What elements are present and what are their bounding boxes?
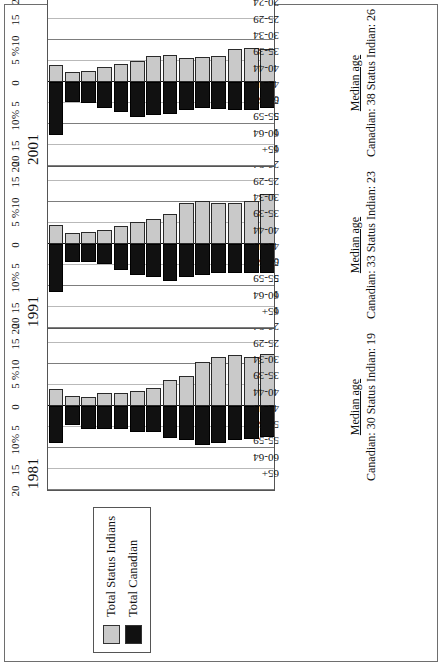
percent-symbol-left: % [9,110,21,119]
age-tick-label-45-49: 45-49 [253,241,279,253]
age-tick-label-30-34: 30-34 [253,354,279,366]
percent-symbol-right: % [9,371,21,380]
age-tick-35-39: 35-39 [277,53,337,69]
median-age-block-2001: Median ageCanadian: 38 Status Indian: 26 [347,0,379,167]
legend-label-status-indians: Total Status Indians [104,516,119,617]
bar-total-canadian-35-39 [146,406,161,432]
bar-status-indians-55-59 [81,232,96,244]
age-tick-label-35-39: 35-39 [253,46,279,58]
age-tick-label-50-54: 50-54 [253,257,279,269]
bar-status-indians-25-29 [179,203,194,244]
bar-total-canadian-60-64 [65,244,80,262]
panel-title-2001: 2001 [25,0,42,167]
percent-tick-neg15: 15 [9,465,21,476]
bar-status-indians-35-39 [146,219,161,244]
bar-status-indians-60-64 [65,233,80,244]
bar-total-canadian-40-44 [130,82,145,117]
median-age-heading-1991: Median age [347,161,363,329]
age-tick-label-50-54: 50-54 [253,419,279,431]
bar-row-30-34 [163,162,178,328]
bar-status-indians-35-39 [146,56,161,82]
age-tick-label-55-59: 55-59 [253,273,279,285]
legend-item-total-canadian: Total Canadian [122,516,144,644]
percent-tick-neg5: 5 [9,263,21,269]
percent-tick-0: 0 [9,242,21,248]
percent-tick-neg10: 10 [9,444,21,455]
bar-total-canadian-10-14 [228,82,243,110]
bar-row-40-44 [130,162,145,328]
age-tick-label-25-29: 25-29 [253,14,279,26]
bar-total-canadian-55-59 [81,406,96,429]
bar-status-indians-40-44 [130,222,145,244]
age-tick-label-55-59: 55-59 [253,111,279,123]
bar-status-indians-55-59 [81,71,96,82]
bar-total-canadian-55-59 [81,244,96,262]
bar-total-canadian-35-39 [146,82,161,115]
age-tick-label-20-24: 20-24 [253,0,279,9]
median-age-heading-text: Median age [347,379,363,435]
age-tick-30-34: 30-34 [277,37,337,53]
bar-row-35-39 [146,0,161,166]
bar-total-canadian-30-34 [163,82,178,114]
bar-total-canadian-40-44 [130,406,145,432]
age-tick-55-59: 55-59 [277,442,337,458]
age-tick-label-40-44: 40-44 [253,225,279,237]
age-tick-65+: 65+ [277,313,337,329]
age-tick-label-30-34: 30-34 [253,30,279,42]
bar-row-50-54 [97,0,112,166]
percent-tick-neg15: 15 [9,303,21,314]
chart-legend: Total Status Indians Total Canadian [93,507,151,653]
chart-panel-1991: 1991201510505101520%%65+60-6455-5950-544… [25,161,417,329]
age-tick-25-29: 25-29 [277,345,337,361]
bar-status-indians-15-19 [211,357,226,406]
age-tick-15-19: 15-19 [277,0,337,4]
median-age-values-1991: Canadian: 33 Status Indian: 23 [363,161,379,329]
percent-symbol-right: % [9,209,21,218]
percent-axis-1981: 201510505101520%% [9,323,25,491]
bar-row-65+ [49,0,64,166]
bar-row-55-59 [81,162,96,328]
age-tick-label-35-39: 35-39 [253,370,279,382]
bar-status-indians-10-14 [228,203,243,244]
age-tick-20-24: 20-24 [277,4,337,20]
age-tick-20-24: 20-24 [277,328,337,344]
plot-area-2001 [47,0,275,167]
age-tick-50-54: 50-54 [277,264,337,280]
percent-tick-neg10: 10 [9,120,21,131]
bar-row-60-64 [65,162,80,328]
bar-total-canadian-65+ [49,244,64,292]
bar-row-60-64 [65,0,80,166]
percent-tick-neg20: 20 [9,486,21,497]
age-tick-55-59: 55-59 [277,280,337,296]
bar-status-indians-30-34 [163,214,178,244]
bar-status-indians-60-64 [65,396,80,406]
bar-total-canadian-60-64 [65,82,80,102]
bar-total-canadian-20-24 [195,244,210,275]
bar-total-canadian-50-54 [97,82,112,108]
age-tick-label-25-29: 25-29 [253,176,279,188]
median-age-heading-1981: Median age [347,323,363,491]
age-tick-label-60-64: 60-64 [253,452,279,464]
bar-total-canadian-40-44 [130,244,145,275]
bar-status-indians-35-39 [146,388,161,406]
bar-status-indians-45-49 [114,393,129,406]
bar-status-indians-30-34 [163,55,178,82]
bar-group-2001 [48,0,274,166]
age-tick-label-60-64: 60-64 [253,128,279,140]
percent-tick-neg5: 5 [9,101,21,107]
percent-axis-1991: 201510505101520%% [9,161,25,329]
age-tick-35-39: 35-39 [277,215,337,231]
age-tick-25-29: 25-29 [277,183,337,199]
bar-status-indians-55-59 [81,397,96,406]
plot-area-1981 [47,323,275,491]
bar-status-indians-25-29 [179,376,194,406]
bar-row-45-49 [114,0,129,166]
percent-tick-15: 15 [9,15,21,26]
percent-tick-5: 5 [9,221,21,227]
bar-row-15-19 [211,0,226,166]
bar-group-1991 [48,162,274,328]
percent-symbol-left: % [9,272,21,281]
bar-total-canadian-65+ [49,82,64,135]
bar-status-indians-20-24 [195,57,210,82]
bar-status-indians-50-54 [97,230,112,244]
